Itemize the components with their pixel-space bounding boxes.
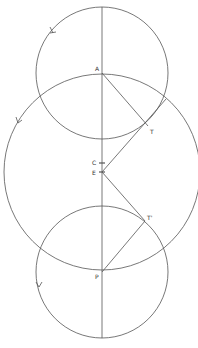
radius-p-t-prime — [102, 221, 145, 272]
radius-a-t — [102, 73, 148, 126]
diagram-canvas: A T C E T' P — [0, 0, 198, 348]
line-e-t-prime — [102, 172, 145, 221]
label-t-prime: T' — [146, 214, 153, 221]
label-e: E — [92, 169, 96, 176]
label-t: T — [149, 128, 154, 135]
label-c: C — [92, 159, 96, 166]
top-circle-arrow-icon — [50, 27, 56, 33]
label-p: P — [95, 273, 99, 280]
label-a: A — [95, 65, 100, 72]
